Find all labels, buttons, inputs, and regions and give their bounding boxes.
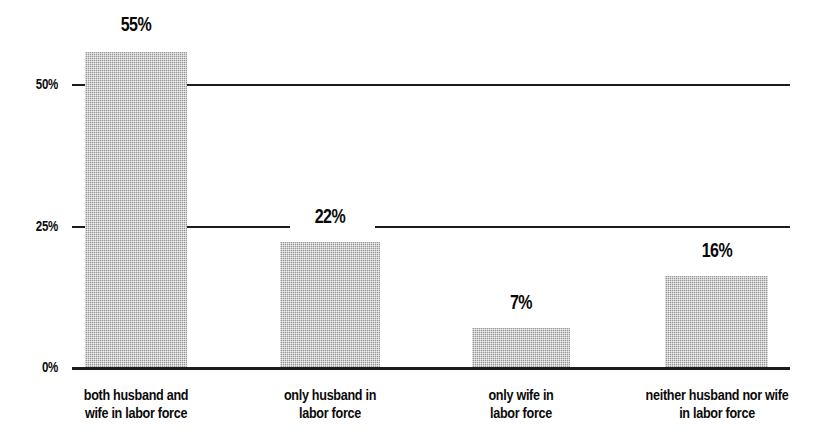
bar-only-wife [472, 328, 570, 367]
value-label-bar-2: 22% [290, 206, 370, 227]
gridline-25-right [375, 226, 790, 228]
bar-only-husband [280, 242, 380, 367]
axis-baseline [72, 367, 790, 370]
y-tick-label-50: 50% [10, 76, 58, 92]
value-label-bar-3: 7% [481, 292, 561, 313]
bar-neither-husband-nor-wife [665, 276, 768, 367]
category-label-bar-1: both husband and wife in labor force [69, 386, 203, 423]
category-label-bar-2: only husband in labor force [266, 386, 394, 423]
value-label-bar-4: 16% [676, 240, 758, 261]
category-label-bar-3: only wife in labor force [459, 386, 583, 423]
y-tick-label-25: 25% [10, 218, 58, 234]
y-tick-label-0: 0% [10, 359, 58, 375]
category-label-bar-4: neither husband nor wife in labor force [642, 386, 792, 423]
value-label-bar-1: 55% [96, 14, 176, 35]
bar-chart: 50% 25% 0% 55% 22% 7% 16% both husband a… [0, 0, 836, 448]
plot-area: 50% 25% 0% 55% 22% 7% 16% both husband a… [0, 0, 836, 448]
bar-both-husband-and-wife [85, 52, 187, 367]
